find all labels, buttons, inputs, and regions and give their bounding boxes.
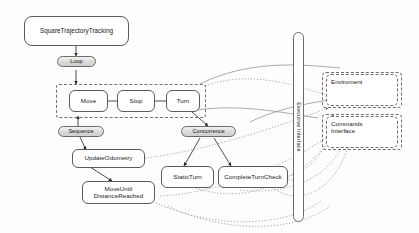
executive-interface-label: Executive Interface xyxy=(296,102,302,151)
diagram-canvas: SquareTrajectoryTracking Loop Move Stop … xyxy=(0,0,419,233)
node-static-turn[interactable]: StaticTurn xyxy=(161,166,214,188)
node-complete-turn-check[interactable]: CompleteTurnCheck xyxy=(218,166,288,188)
node-label: CompleteTurnCheck xyxy=(224,174,281,181)
node-label: StaticTurn xyxy=(173,174,201,181)
commands-interface-label-line1: Commands xyxy=(331,120,363,127)
node-move[interactable]: Move xyxy=(69,90,108,112)
commands-interface-node[interactable]: Commands Interface xyxy=(326,116,398,148)
node-label: SquareTrajectoryTracking xyxy=(40,27,113,34)
edge-move-to-commands-upper xyxy=(205,79,330,96)
edge-concurrence-to-staticturn xyxy=(184,138,200,166)
node-sequence[interactable]: Sequence xyxy=(58,126,104,137)
executive-interface-bar: Executive Interface xyxy=(293,32,304,222)
node-stop[interactable]: Stop xyxy=(117,90,155,112)
node-label-line2: DistanceReached xyxy=(94,193,144,200)
node-label: Concurrence xyxy=(192,128,224,134)
environment-node[interactable]: Enviroment xyxy=(326,74,398,106)
node-turn[interactable]: Turn xyxy=(166,90,200,112)
commands-interface-label-line2: Interface xyxy=(331,127,355,134)
node-update-odometry[interactable]: UpdateOdometry xyxy=(72,149,145,168)
edge-loopback-top xyxy=(200,65,340,84)
edge-environment-return xyxy=(250,100,330,122)
node-label: UpdateOdometry xyxy=(85,155,133,162)
node-square-trajectory-tracking[interactable]: SquareTrajectoryTracking xyxy=(24,16,129,46)
edge-updateodometry-to-moveuntil xyxy=(90,167,112,181)
node-concurrence[interactable]: Concurrence xyxy=(181,126,236,137)
edge-bottom-sweep-two xyxy=(168,206,330,226)
edge-concurrence-to-completeturncheck xyxy=(214,138,231,166)
node-label: Loop xyxy=(70,58,82,64)
node-move-until-distance-reached[interactable]: MoveUntil DistanceReached xyxy=(82,181,155,204)
node-label: Turn xyxy=(177,98,190,105)
node-label: Sequence xyxy=(68,128,93,134)
node-loop[interactable]: Loop xyxy=(57,56,96,67)
node-label: Move xyxy=(81,98,96,105)
environment-label: Enviroment xyxy=(331,78,362,85)
node-label: Stop xyxy=(130,98,143,105)
